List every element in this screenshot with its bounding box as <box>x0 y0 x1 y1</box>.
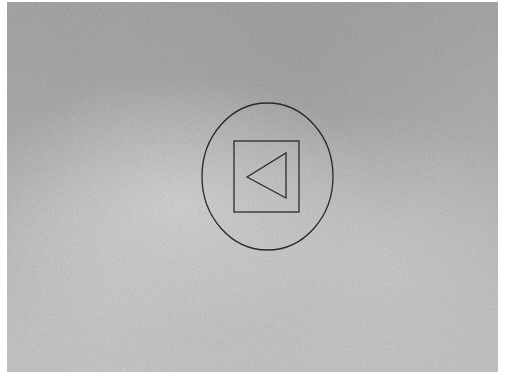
textured-background <box>7 2 498 372</box>
canvas <box>0 0 508 380</box>
paper-grain <box>7 2 498 372</box>
